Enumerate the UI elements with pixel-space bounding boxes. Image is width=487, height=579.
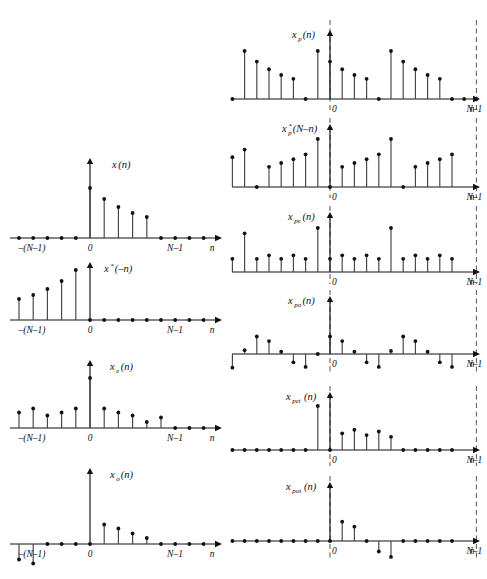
stem-marker	[353, 525, 357, 529]
stem-marker	[231, 539, 235, 543]
stem-plot-xpot-n: xpot(n)0N–1n	[0, 0, 487, 579]
series-label: xpot(n)	[285, 481, 317, 495]
stem-marker	[438, 539, 442, 543]
stem-marker	[255, 539, 259, 543]
stem-marker	[292, 539, 296, 543]
series-label-subscript: pot	[291, 487, 302, 495]
stem-marker	[365, 539, 369, 543]
stem-marker	[401, 539, 405, 543]
stem-marker	[377, 550, 381, 554]
series-label-argument: (n)	[304, 481, 317, 493]
stem-marker	[340, 520, 344, 524]
stem-marker	[328, 539, 332, 543]
stem-marker	[426, 539, 430, 543]
stem-marker	[267, 539, 271, 543]
stem-marker	[304, 539, 308, 543]
stem-marker	[414, 539, 418, 543]
figure-root: x(n)–(N–1)0N–1nx*(–n)–(N–1)0N–1nxe(n)–(N…	[0, 0, 487, 579]
series-label-main: x	[285, 481, 291, 492]
stem-marker	[279, 539, 283, 543]
y-axis-arrowhead	[327, 482, 333, 488]
tick-zero: 0	[332, 546, 337, 556]
stem-marker	[389, 555, 393, 559]
stem-marker	[316, 539, 320, 543]
stem-marker	[243, 539, 247, 543]
tick-axis-n: n	[470, 546, 475, 556]
stem-marker	[450, 539, 454, 543]
